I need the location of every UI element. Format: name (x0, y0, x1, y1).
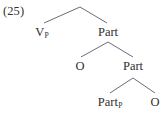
tree-node-vp-label: V (35, 25, 44, 39)
tree-node-o-1: O (75, 60, 84, 73)
tree-node-part-2: Part (123, 60, 143, 73)
branch-part2-left (110, 78, 133, 93)
tree-node-partp-subscript: P (118, 101, 122, 110)
syntax-tree-figure: (25) VP Part O Part PartP O (0, 0, 168, 117)
tree-node-o-2-label: O (150, 95, 159, 109)
tree-node-vp-subscript: P (45, 31, 49, 40)
tree-node-part-1-label: Part (98, 25, 118, 39)
tree-node-partp-label: Part (98, 95, 118, 109)
tree-node-o-1-label: O (75, 59, 84, 73)
tree-node-part-1: Part (98, 26, 118, 39)
branch-root-right (80, 7, 107, 23)
branch-part1-left (81, 42, 108, 57)
branch-root-left (44, 7, 80, 23)
branch-part1-right (108, 42, 133, 57)
tree-node-o-2: O (150, 96, 159, 109)
tree-node-partp: PartP (98, 96, 122, 109)
tree-node-vp: VP (35, 26, 48, 39)
branch-part2-right (133, 78, 155, 93)
tree-node-part-2-label: Part (123, 59, 143, 73)
